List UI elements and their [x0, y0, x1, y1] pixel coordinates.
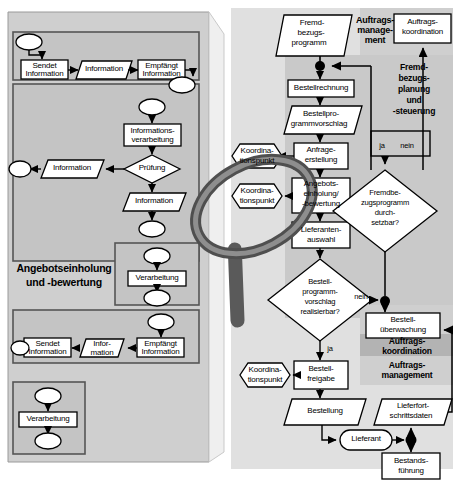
diagram-svg: [0, 0, 453, 481]
diagram-canvas: Sendet Information Information Empfängt …: [0, 0, 453, 481]
left-panel: [8, 12, 224, 462]
